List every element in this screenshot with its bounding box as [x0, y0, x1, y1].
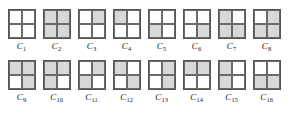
quadrant-bottom-right-empty [127, 24, 140, 38]
label-letter: C [87, 41, 93, 51]
quadrant-bottom-right-empty [22, 24, 35, 38]
quadrant-bottom-right-shaded [197, 24, 210, 38]
configuration-label: C8 [262, 42, 271, 51]
quadrant-top-right-empty [22, 10, 35, 24]
quadrant-top-right-empty [127, 10, 140, 24]
configuration-label: C4 [122, 42, 131, 51]
quadrant-top-left-shaded [219, 10, 232, 24]
configuration-C12: C12 [112, 60, 141, 102]
quadrant-bottom-right-empty [162, 24, 175, 38]
quadrant-top-left-empty [254, 61, 267, 75]
quadrant-top-right-shaded [267, 10, 280, 24]
configuration-C14: C14 [182, 60, 211, 102]
configuration-label: C7 [227, 42, 236, 51]
configuration-grid [43, 9, 71, 39]
quadrant-top-left-empty [149, 10, 162, 24]
quadrant-top-right-shaded [57, 10, 70, 24]
configuration-grid [113, 60, 141, 90]
configuration-grid [113, 9, 141, 39]
quadrant-top-left-empty [79, 10, 92, 24]
quadrant-top-left-shaded [44, 10, 57, 24]
label-subscript: 2 [58, 45, 61, 52]
configuration-C4: C4 [112, 9, 141, 51]
label-letter: C [85, 92, 91, 102]
quadrant-bottom-left-empty [114, 24, 127, 38]
label-letter: C [262, 41, 268, 51]
configuration-C10: C10 [42, 60, 71, 102]
configuration-label: C3 [87, 42, 96, 51]
quadrant-top-left-empty [149, 61, 162, 75]
configuration-label: C15 [225, 93, 238, 102]
quadrant-top-right-empty [162, 10, 175, 24]
quadrant-bottom-left-empty [184, 24, 197, 38]
configuration-C5: C5 [147, 9, 176, 51]
configuration-C16: C16 [252, 60, 281, 102]
configuration-C2: C2 [42, 9, 71, 51]
label-letter: C [157, 41, 163, 51]
label-letter: C [227, 41, 233, 51]
label-subscript: 5 [163, 45, 166, 52]
configuration-label: C14 [190, 93, 203, 102]
quadrant-bottom-left-empty [9, 24, 22, 38]
configuration-label: C16 [260, 93, 273, 102]
quadrant-top-right-empty [197, 10, 210, 24]
configuration-grid [78, 9, 106, 39]
quadrant-top-left-shaded [9, 61, 22, 75]
quadrant-bottom-right-empty [92, 24, 105, 38]
quadrant-bottom-right-empty [92, 75, 105, 89]
quadrant-bottom-right-shaded [22, 75, 35, 89]
quadrant-top-left-empty [79, 61, 92, 75]
configuration-row-1: C1C2C3C4C5C6C7C8 [0, 0, 301, 51]
configuration-C8: C8 [252, 9, 281, 51]
quadrant-top-left-shaded [114, 10, 127, 24]
quadrant-top-left-shaded [219, 61, 232, 75]
quadrant-top-right-shaded [22, 61, 35, 75]
configuration-grid [183, 60, 211, 90]
label-subscript: 6 [198, 45, 201, 52]
quadrant-bottom-right-shaded [57, 24, 70, 38]
quadrant-top-right-shaded [197, 61, 210, 75]
quadrant-top-right-shaded [92, 61, 105, 75]
quadrant-bottom-right-shaded [232, 24, 245, 38]
configuration-grid [218, 9, 246, 39]
configuration-C3: C3 [77, 9, 106, 51]
label-letter: C [52, 41, 58, 51]
quadrant-bottom-left-shaded [254, 24, 267, 38]
quadrant-bottom-left-shaded [219, 24, 232, 38]
configuration-grid [148, 60, 176, 90]
configuration-label: C12 [120, 93, 133, 102]
quadrant-bottom-right-shaded [267, 75, 280, 89]
quadrant-bottom-left-shaded [219, 75, 232, 89]
label-subscript: 3 [93, 45, 96, 52]
configuration-grid [8, 60, 36, 90]
quadrant-top-right-empty [127, 61, 140, 75]
quadrant-bottom-right-empty [232, 75, 245, 89]
quadrant-top-right-empty [232, 10, 245, 24]
quadrant-bottom-left-empty [184, 75, 197, 89]
quadrant-top-left-shaded [114, 61, 127, 75]
quadrant-bottom-left-shaded [254, 75, 267, 89]
configuration-C7: C7 [217, 9, 246, 51]
configuration-grid [78, 60, 106, 90]
quadrant-bottom-right-shaded [127, 75, 140, 89]
label-subscript: 7 [233, 45, 236, 52]
quadrant-bottom-left-shaded [79, 75, 92, 89]
quadrant-top-left-shaded [184, 61, 197, 75]
label-letter: C [17, 92, 23, 102]
label-subscript: 4 [128, 45, 131, 52]
quadrant-bottom-left-empty [149, 75, 162, 89]
label-subscript: 14 [196, 96, 203, 103]
configuration-grid [8, 9, 36, 39]
configuration-row-2: C9C10C11C12C13C14C15C16 [0, 51, 301, 102]
label-letter: C [122, 41, 128, 51]
configuration-grid-figure: C1C2C3C4C5C6C7C8 C9C10C11C12C13C14C15C16 [0, 0, 301, 128]
configuration-grid [218, 60, 246, 90]
quadrant-bottom-right-empty [197, 75, 210, 89]
configuration-grid [253, 60, 281, 90]
label-subscript: 10 [56, 96, 63, 103]
label-subscript: 1 [23, 45, 26, 52]
configuration-C15: C15 [217, 60, 246, 102]
label-subscript: 8 [268, 45, 271, 52]
label-letter: C [17, 41, 23, 51]
configuration-grid [43, 60, 71, 90]
